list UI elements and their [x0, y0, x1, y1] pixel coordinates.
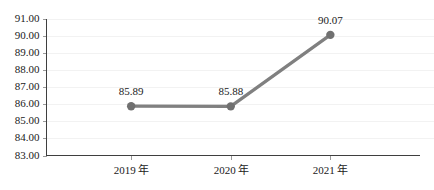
series-marker-point — [227, 102, 235, 110]
y-axis-tick-label: 86.00 — [15, 97, 40, 109]
data-point-label: 85.89 — [119, 85, 144, 97]
y-axis-tick-label: 88.00 — [15, 63, 40, 75]
y-axis-tick-label: 83.00 — [15, 149, 40, 161]
y-axis-tick-label: 84.00 — [15, 131, 40, 143]
series-marker-point — [127, 102, 135, 110]
y-axis-tick-label: 91.00 — [15, 12, 40, 24]
line-chart: 91.0090.0089.0088.0087.0086.0085.0084.00… — [0, 0, 434, 190]
x-axis-tick-labels-group: 2019 年2020 年2021 年 — [114, 163, 349, 176]
chart-background — [0, 0, 434, 190]
y-axis-tick-label: 90.00 — [15, 29, 40, 41]
data-point-label: 85.88 — [218, 85, 243, 97]
data-point-label: 90.07 — [318, 14, 343, 26]
series-marker-point — [326, 31, 334, 39]
y-axis-tick-labels-group: 91.0090.0089.0088.0087.0086.0085.0084.00… — [15, 12, 40, 161]
y-axis-tick-label: 87.00 — [15, 80, 40, 92]
x-axis-tick-label: 2020 年 — [214, 163, 250, 176]
chart-canvas: 91.0090.0089.0088.0087.0086.0085.0084.00… — [0, 0, 434, 190]
x-axis-tick-label: 2021 年 — [313, 163, 349, 176]
x-axis-tick-label: 2019 年 — [114, 163, 150, 176]
y-axis-tick-label: 89.00 — [15, 46, 40, 58]
y-axis-tick-label: 85.00 — [15, 114, 40, 126]
